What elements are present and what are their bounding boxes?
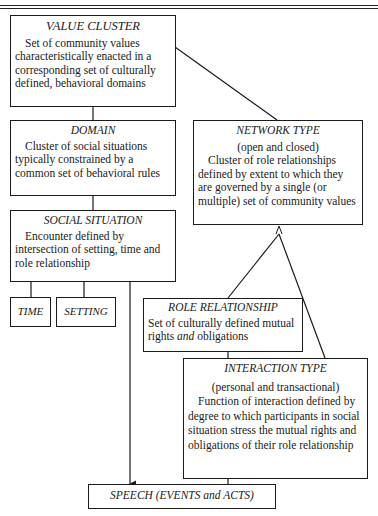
time-title: TIME bbox=[11, 305, 50, 319]
interaction-type-title: INTERACTION TYPE bbox=[184, 362, 367, 376]
speech-box: SPEECH (EVENTS and ACTS) bbox=[88, 484, 276, 509]
social-situation-box: SOCIAL SITUATION Encounter defined by in… bbox=[10, 210, 176, 282]
network-type-subtitle: (open and closed) bbox=[194, 141, 362, 155]
speech-title: SPEECH (EVENTS and ACTS) bbox=[89, 489, 275, 503]
interaction-type-box: INTERACTION TYPE (personal and transacti… bbox=[183, 358, 368, 479]
network-type-description: Cluster of role relationships defined by… bbox=[194, 154, 362, 208]
interaction-type-subtitle: (personal and transactional) bbox=[184, 381, 367, 395]
domain-box: DOMAIN Cluster of social situations typi… bbox=[10, 120, 176, 196]
value-cluster-title: VALUE CLUSTER bbox=[11, 20, 175, 34]
setting-box: SETTING bbox=[56, 297, 116, 327]
network-type-box: NETWORK TYPE (open and closed) Cluster o… bbox=[193, 120, 363, 225]
interaction-type-description: Function of interaction defined by degre… bbox=[184, 394, 367, 452]
role-relationship-description-em: and bbox=[177, 330, 194, 342]
social-situation-title: SOCIAL SITUATION bbox=[11, 214, 175, 228]
role-relationship-title: ROLE RELATIONSHIP bbox=[144, 301, 302, 315]
domain-title: DOMAIN bbox=[11, 124, 175, 138]
role-relationship-description: Set of culturally defined mutual rights … bbox=[144, 317, 302, 344]
role-relationship-box: ROLE RELATIONSHIP Set of culturally defi… bbox=[143, 298, 303, 352]
social-situation-description: Encounter defined by intersection of set… bbox=[11, 230, 175, 271]
value-cluster-description: Set of community values characteristical… bbox=[11, 37, 175, 91]
time-box: TIME bbox=[10, 297, 51, 327]
network-type-title: NETWORK TYPE bbox=[194, 124, 362, 138]
setting-title: SETTING bbox=[57, 305, 115, 319]
domain-description: Cluster of social situations typically c… bbox=[11, 140, 175, 181]
role-relationship-description-post: obligations bbox=[194, 330, 248, 342]
value-cluster-box: VALUE CLUSTER Set of community values ch… bbox=[10, 15, 176, 107]
